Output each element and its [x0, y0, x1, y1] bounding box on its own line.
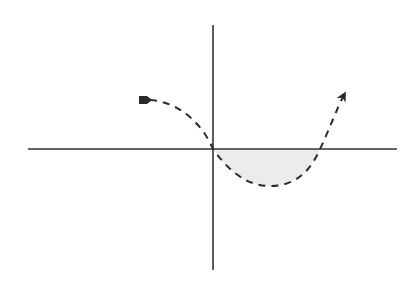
curve-start-marker-icon: [139, 96, 152, 104]
function-diagram: [0, 0, 417, 283]
